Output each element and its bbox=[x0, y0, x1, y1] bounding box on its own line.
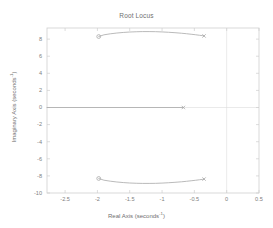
y-tick-label: -4 bbox=[16, 139, 42, 145]
x-tick-label: -0.5 bbox=[179, 196, 209, 202]
locus-series-lower-branch bbox=[99, 178, 204, 183]
y-tick-label: -6 bbox=[16, 156, 42, 162]
y-tick-label: 6 bbox=[16, 53, 42, 59]
y-tick-label: -8 bbox=[16, 173, 42, 179]
locus-series-upper-branch bbox=[99, 32, 204, 37]
x-tick-label: -1.5 bbox=[115, 196, 145, 202]
y-tick-label: 2 bbox=[16, 87, 42, 93]
x-axis-label-text: Real Axis (seconds bbox=[108, 213, 159, 219]
x-tick-label: 0 bbox=[212, 196, 242, 202]
y-tick-label: -10 bbox=[16, 190, 42, 196]
plot-frame bbox=[47, 28, 259, 193]
y-tick-label: 4 bbox=[16, 70, 42, 76]
x-axis-label: Real Axis (seconds-1) bbox=[0, 213, 273, 219]
y-tick-label: 0 bbox=[16, 104, 42, 110]
y-axis-label-exponent: -1 bbox=[9, 74, 14, 78]
y-tick-label: 8 bbox=[16, 36, 42, 42]
x-tick-label: -2 bbox=[82, 196, 112, 202]
x-tick-label: -2.5 bbox=[50, 196, 80, 202]
x-tick-label: -1 bbox=[147, 196, 177, 202]
root-locus-figure: Root Locus Real Axis (seconds-1) Imagina… bbox=[0, 0, 273, 228]
y-tick-label: -2 bbox=[16, 121, 42, 127]
x-axis-label-tail: ) bbox=[163, 213, 165, 219]
x-tick-label: 0.5 bbox=[244, 196, 273, 202]
